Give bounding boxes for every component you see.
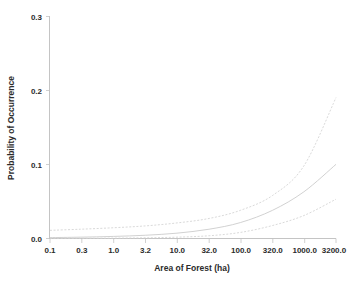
y-axis-title: Probability of Occurrence [6,76,16,180]
y-tick-label: 0.3 [31,13,43,22]
x-tick-label: 3.2 [140,246,152,255]
y-tick-label: 0.2 [31,87,43,96]
x-axis-title: Area of Forest (ha) [154,263,230,273]
x-tick-label: 320.0 [263,246,284,255]
y-tick-label: 0.1 [31,161,43,170]
y-tick-label: 0.0 [31,235,43,244]
x-tick-label: 10.0 [170,246,186,255]
x-tick-label: 0.3 [76,246,88,255]
x-tick-label: 32.0 [201,246,217,255]
chart-background [0,0,357,287]
probability-of-occurrence-chart: 0.3 0.2 0.1 0.0 0.1 0.3 1.0 3.2 10.0 32.… [0,0,357,287]
x-tick-label: 0.1 [44,246,56,255]
x-tick-label: 1000.0 [292,246,317,255]
x-tick-label: 100.0 [231,246,252,255]
x-tick-label: 3200.0 [322,246,347,255]
x-tick-label: 1.0 [108,246,120,255]
